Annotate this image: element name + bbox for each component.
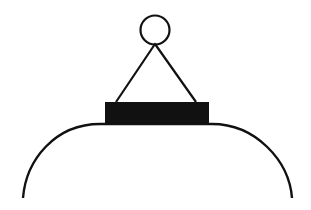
hanger-triangle <box>116 44 196 102</box>
ornament-diagram <box>0 0 311 210</box>
dome-outline <box>23 124 292 198</box>
cap-block <box>105 102 209 124</box>
ring-icon <box>141 16 170 45</box>
